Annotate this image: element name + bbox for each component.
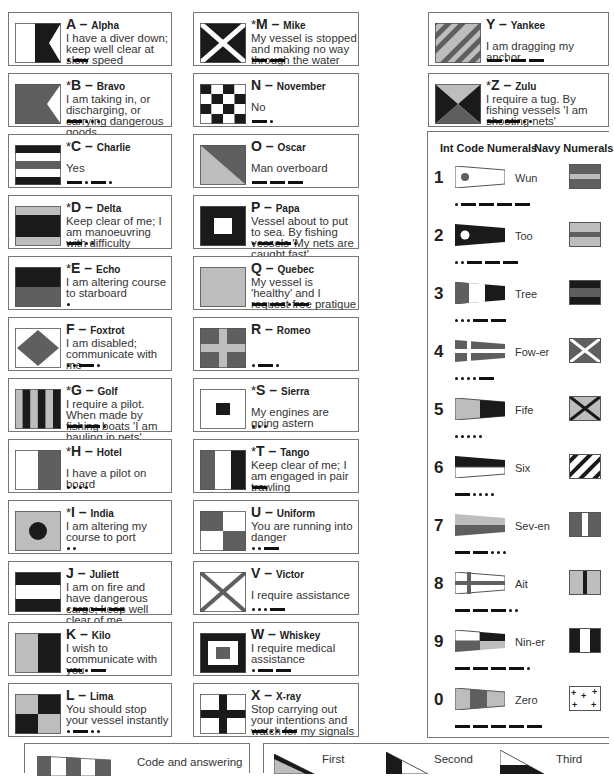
morse-dash xyxy=(270,608,285,611)
morse-dot xyxy=(252,547,255,550)
morse-dot xyxy=(67,364,70,367)
morse-dot xyxy=(258,425,261,428)
morse-code xyxy=(252,180,303,184)
morse-dash xyxy=(509,667,524,670)
morse-dot xyxy=(85,120,88,123)
flag-letter: L xyxy=(66,687,74,703)
flag-card-bravo: *B – Bravo I am taking in, or dischargin… xyxy=(8,73,172,127)
flag-letter: U xyxy=(251,504,261,520)
navy-numeral-3-icon xyxy=(569,280,601,305)
flag-card-hotel: *H – Hotel I have a pilot on board xyxy=(8,439,172,493)
numeral-pronunciation: Fife xyxy=(515,404,533,416)
morse-dash xyxy=(67,669,82,672)
svg-text:+: + xyxy=(572,700,577,710)
morse-dash xyxy=(491,725,506,728)
flag-tango-icon xyxy=(200,450,246,490)
morse-code xyxy=(67,607,124,611)
morse-code xyxy=(67,119,100,123)
flag-title: J – Juliett xyxy=(66,565,119,581)
morse-dot xyxy=(461,377,464,380)
svg-text:+: + xyxy=(592,687,597,697)
numeral-pennant-0-icon xyxy=(455,688,505,710)
morse-dash xyxy=(455,609,470,612)
morse-dash xyxy=(473,725,488,728)
morse-dash xyxy=(252,303,267,306)
morse-dash xyxy=(479,377,494,380)
numeral-pennant-9-icon xyxy=(455,630,505,652)
flag-uniform-icon xyxy=(200,511,246,551)
numerals-panel: Int Code Numerals Navy Numerals 1 Wun 2 … xyxy=(427,131,609,738)
morse-dash xyxy=(491,609,506,612)
morse-dash xyxy=(73,730,88,733)
flag-card-zulu: *Z – Zulu I require a tug. By fishing ve… xyxy=(428,73,609,127)
morse-code xyxy=(455,260,518,264)
morse-dot xyxy=(491,551,494,554)
flag-name: Sierra xyxy=(281,386,309,397)
morse-dash xyxy=(258,364,273,367)
morse-code xyxy=(67,729,100,733)
morse-dot xyxy=(529,120,532,123)
morse-code xyxy=(455,376,494,380)
flag-oscar-icon xyxy=(200,145,246,185)
flag-message: I require medical assistance xyxy=(251,643,357,665)
flag-title: A – Alpha xyxy=(66,16,119,32)
flag-letter: S xyxy=(256,382,265,398)
numeral-pronunciation: Nin-er xyxy=(515,636,545,648)
morse-dot xyxy=(252,669,255,672)
numeral-pronunciation: Six xyxy=(515,462,530,474)
numeral-digit: 0 xyxy=(434,690,443,710)
answering-pennant-box: Code and answering xyxy=(24,743,250,773)
numeral-digit: 6 xyxy=(434,458,443,478)
numeral-pennant-5-icon xyxy=(455,398,505,420)
navy-numeral-7-icon xyxy=(569,512,601,537)
morse-dash xyxy=(294,303,309,306)
morse-dash xyxy=(252,120,267,123)
flag-letter: D xyxy=(71,199,81,215)
morse-code xyxy=(455,202,530,206)
flag-title: K – Kilo xyxy=(66,626,111,642)
morse-code xyxy=(252,607,285,611)
morse-dash xyxy=(473,667,488,670)
first-substitute-icon xyxy=(274,754,314,774)
morse-code xyxy=(67,363,100,367)
morse-dash xyxy=(73,608,88,611)
flag-message: Vessel about to put to sea. By fishing v… xyxy=(251,216,357,260)
morse-dot xyxy=(509,609,512,612)
morse-dot xyxy=(91,730,94,733)
morse-dot xyxy=(67,608,70,611)
flag-yankee-icon xyxy=(435,23,481,63)
morse-dot xyxy=(467,377,470,380)
morse-code xyxy=(252,729,297,733)
flag-name: Delta xyxy=(97,203,121,214)
morse-dot xyxy=(91,242,94,245)
morse-dot xyxy=(455,377,458,380)
flag-title: *H – Hotel xyxy=(66,443,122,459)
flag-letter: R xyxy=(251,321,261,337)
third-substitute-label: Third xyxy=(556,753,582,765)
flag-message: Yes xyxy=(66,163,170,174)
morse-dot xyxy=(73,364,76,367)
flag-title: *M – Mike xyxy=(251,16,306,32)
flag-kilo-icon xyxy=(15,633,61,673)
numeral-row-2: 2 Too xyxy=(428,218,610,276)
morse-dot xyxy=(103,425,106,428)
flag-letter: B xyxy=(71,77,81,93)
svg-text:+: + xyxy=(571,688,576,698)
morse-code xyxy=(67,241,94,245)
morse-dot xyxy=(467,319,470,322)
morse-dot xyxy=(467,435,470,438)
flag-card-golf: *G – Golf I require a pilot. When made b… xyxy=(8,378,172,432)
flag-charlie-icon xyxy=(15,145,61,185)
svg-text:+: + xyxy=(591,700,596,710)
flag-title: Q – Quebec xyxy=(251,260,314,276)
morse-dash xyxy=(91,181,106,184)
flag-letter: H xyxy=(71,443,81,459)
navy-numeral-1-icon xyxy=(569,164,601,189)
flag-letter: O xyxy=(251,138,262,154)
morse-dot xyxy=(97,730,100,733)
flag-papa-icon xyxy=(200,206,246,246)
flag-title: N – November xyxy=(251,77,326,93)
morse-dash xyxy=(487,59,502,62)
morse-dot xyxy=(73,547,76,550)
flag-india-icon xyxy=(15,511,61,551)
